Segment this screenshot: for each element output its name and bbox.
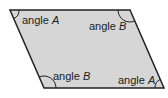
label-angle-b-top: angle B [89, 20, 126, 32]
parallelogram-diagram: angle A angle B angle B angle A [0, 0, 168, 98]
label-angle-a-bottom: angle A [118, 74, 155, 86]
label-angle-a-top: angle A [22, 14, 59, 26]
label-angle-b-bottom: angle B [53, 70, 90, 82]
